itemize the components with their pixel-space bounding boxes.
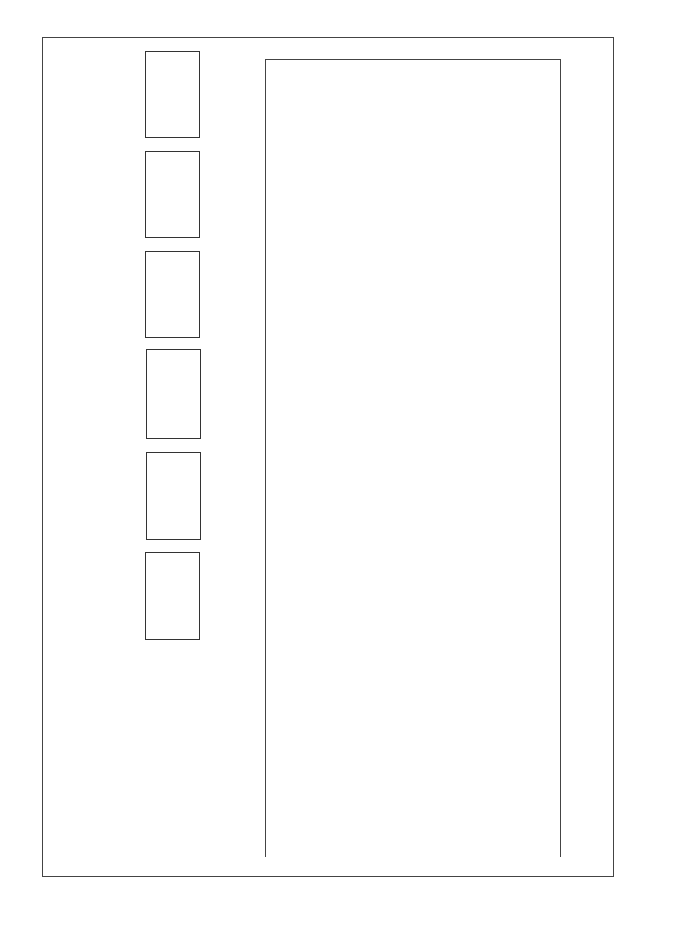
inner-frame [265,59,561,857]
source-test-results [145,251,200,338]
source-parental-assessment [145,552,200,640]
source-observational-data [146,349,201,439]
diagram-rotated [0,0,693,945]
source-pupils-perception [145,51,200,138]
source-teacher-assessment [145,151,200,238]
source-national-curriculum [146,452,201,540]
